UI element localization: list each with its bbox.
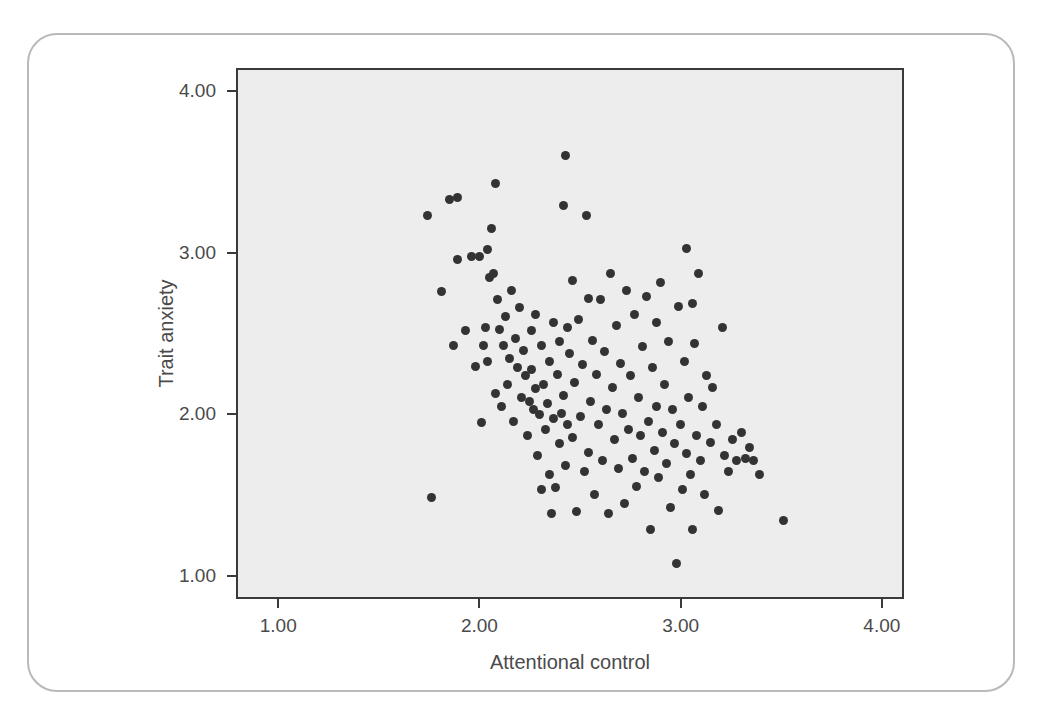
scatter-plot-area — [236, 68, 904, 599]
data-point — [527, 365, 536, 374]
x-axis-tick-label: 4.00 — [863, 615, 900, 637]
data-point — [487, 224, 496, 233]
data-point — [511, 334, 520, 343]
data-point — [634, 393, 643, 402]
data-point — [606, 269, 615, 278]
x-axis-tick-label: 3.00 — [662, 615, 699, 637]
x-axis-tick-label: 2.00 — [461, 615, 498, 637]
data-point — [475, 252, 484, 261]
data-point — [549, 318, 558, 327]
data-point — [648, 363, 657, 372]
x-axis-tick — [478, 599, 480, 608]
data-point — [596, 295, 605, 304]
y-axis-tick — [227, 252, 236, 254]
data-point — [461, 326, 470, 335]
y-axis-tick — [227, 90, 236, 92]
data-point — [692, 431, 701, 440]
data-point — [636, 431, 645, 440]
data-point — [491, 389, 500, 398]
data-point — [561, 151, 570, 160]
data-point — [680, 357, 689, 366]
data-point — [531, 310, 540, 319]
data-point — [618, 409, 627, 418]
data-point — [483, 245, 492, 254]
x-axis-tick — [680, 599, 682, 608]
data-point — [702, 371, 711, 380]
data-point — [662, 459, 671, 468]
data-point — [557, 409, 566, 418]
data-point — [563, 420, 572, 429]
data-point — [718, 323, 727, 332]
data-point — [495, 325, 504, 334]
data-point — [559, 391, 568, 400]
data-point — [592, 370, 601, 379]
data-point — [684, 393, 693, 402]
data-point — [437, 287, 446, 296]
data-point — [614, 464, 623, 473]
data-point — [728, 435, 737, 444]
data-point — [541, 425, 550, 434]
data-point — [481, 323, 490, 332]
data-point — [553, 370, 562, 379]
data-point — [584, 448, 593, 457]
data-point — [656, 278, 665, 287]
data-point — [543, 399, 552, 408]
data-point — [664, 337, 673, 346]
data-point — [509, 417, 518, 426]
data-point — [568, 433, 577, 442]
data-point — [582, 211, 591, 220]
data-point — [471, 362, 480, 371]
y-axis-tick-label: 4.00 — [116, 80, 216, 102]
data-point — [598, 456, 607, 465]
data-point — [654, 473, 663, 482]
x-axis-label: Attentional control — [236, 651, 904, 674]
data-point — [626, 371, 635, 380]
data-point — [537, 341, 546, 350]
data-point — [620, 499, 629, 508]
data-point — [779, 516, 788, 525]
data-point — [449, 341, 458, 350]
data-point — [714, 506, 723, 515]
data-point — [491, 179, 500, 188]
data-point — [555, 337, 564, 346]
data-point — [638, 342, 647, 351]
data-point — [682, 449, 691, 458]
data-point — [700, 490, 709, 499]
data-point — [698, 402, 707, 411]
data-point — [668, 405, 677, 414]
data-point — [483, 357, 492, 366]
data-point — [535, 410, 544, 419]
data-point — [551, 483, 560, 492]
data-point — [642, 292, 651, 301]
data-point — [652, 402, 661, 411]
data-point — [594, 420, 603, 429]
data-point — [427, 493, 436, 502]
data-point — [674, 302, 683, 311]
y-axis-tick — [227, 413, 236, 415]
data-point — [489, 269, 498, 278]
data-point — [568, 276, 577, 285]
data-point — [737, 428, 746, 437]
data-point — [678, 485, 687, 494]
data-point — [624, 425, 633, 434]
data-point — [505, 354, 514, 363]
data-point — [570, 378, 579, 387]
data-point — [453, 193, 462, 202]
data-point — [660, 380, 669, 389]
x-axis-tick — [277, 599, 279, 608]
data-point — [720, 451, 729, 460]
data-point — [586, 397, 595, 406]
data-point — [499, 341, 508, 350]
data-point — [561, 461, 570, 470]
data-point — [588, 336, 597, 345]
y-axis-tick — [227, 575, 236, 577]
data-point — [612, 321, 621, 330]
data-point — [688, 525, 697, 534]
data-point — [576, 412, 585, 421]
data-point — [604, 509, 613, 518]
data-point — [694, 269, 703, 278]
data-point — [690, 339, 699, 348]
data-point — [706, 438, 715, 447]
data-point — [682, 244, 691, 253]
data-point — [666, 503, 675, 512]
